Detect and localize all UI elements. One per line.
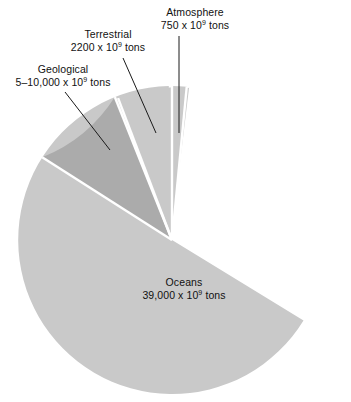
label-geological-value-suffix: tons xyxy=(87,76,110,88)
label-geological-value-prefix: 5–10,000 x 10 xyxy=(15,76,83,88)
label-atmosphere-value: 750 x 109 tons xyxy=(147,19,243,32)
label-geological-value: 5–10,000 x 109 tons xyxy=(2,76,124,89)
pie-chart-graphic xyxy=(0,0,351,402)
label-terrestrial-name: Terrestrial xyxy=(56,28,160,41)
label-oceans-value-suffix: tons xyxy=(202,289,225,301)
pie-chart-figure: Atmosphere 750 x 109 tons Terrestrial 22… xyxy=(0,0,351,402)
label-atmosphere-name: Atmosphere xyxy=(147,6,243,19)
label-oceans-value-prefix: 39,000 x 10 xyxy=(142,289,198,301)
label-oceans: Oceans 39,000 x 109 tons xyxy=(121,276,247,301)
label-atmosphere-value-prefix: 750 x 10 xyxy=(161,19,202,31)
label-oceans-name: Oceans xyxy=(121,276,247,289)
label-terrestrial-value-prefix: 2200 x 10 xyxy=(71,41,118,53)
label-oceans-value: 39,000 x 109 tons xyxy=(121,289,247,302)
label-terrestrial-value-suffix: tons xyxy=(122,41,145,53)
label-terrestrial-value: 2200 x 109 tons xyxy=(56,41,160,54)
label-terrestrial: Terrestrial 2200 x 109 tons xyxy=(56,28,160,53)
label-atmosphere-value-suffix: tons xyxy=(206,19,229,31)
label-atmosphere: Atmosphere 750 x 109 tons xyxy=(147,6,243,31)
label-geological: Geological 5–10,000 x 109 tons xyxy=(2,63,124,88)
label-geological-name: Geological xyxy=(2,63,124,76)
